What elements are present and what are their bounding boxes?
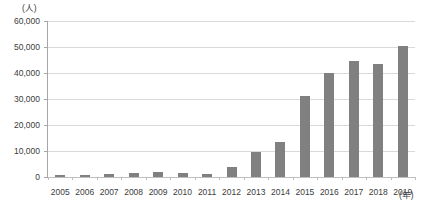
x-axis-tick-label: 2017 <box>342 188 366 197</box>
y-axis-tick-label: 60,000 <box>14 17 40 26</box>
x-axis-tick-label: 2005 <box>48 188 72 197</box>
x-axis-tick-label: 2015 <box>293 188 317 197</box>
x-axis-unit-label: (年) <box>399 188 414 200</box>
x-axis-tick-label: 2011 <box>195 188 219 197</box>
x-axis-tick-label: 2016 <box>317 188 341 197</box>
x-axis-tick <box>415 177 416 180</box>
bar <box>104 174 114 177</box>
x-axis-tick-label: 2014 <box>268 188 292 197</box>
x-axis-tick-label: 2008 <box>121 188 145 197</box>
x-axis-tick <box>195 177 196 180</box>
gridline-baseline <box>48 177 415 178</box>
bar-series <box>48 21 415 177</box>
x-axis-tick <box>268 177 269 180</box>
x-axis-tick <box>97 177 98 180</box>
x-axis-tick <box>170 177 171 180</box>
x-axis-tick <box>317 177 318 180</box>
y-axis-tick-label: 30,000 <box>14 95 40 104</box>
x-axis-tick <box>219 177 220 180</box>
bar <box>80 175 90 177</box>
bar <box>373 64 383 177</box>
x-axis-tick-label: 2007 <box>97 188 121 197</box>
bar <box>324 73 334 177</box>
bar <box>129 173 139 177</box>
x-axis-tick <box>342 177 343 180</box>
x-axis-tick-label: 2009 <box>146 188 170 197</box>
bar <box>178 173 188 177</box>
x-axis-tick <box>391 177 392 180</box>
x-axis-tick <box>244 177 245 180</box>
x-axis-tick-label: 2013 <box>244 188 268 197</box>
y-axis-tick-label: 40,000 <box>14 69 40 78</box>
x-axis-tick-label: 2018 <box>366 188 390 197</box>
x-axis-tick <box>146 177 147 180</box>
bar <box>275 142 285 177</box>
bar <box>153 172 163 177</box>
y-axis-tick-label: 50,000 <box>14 43 40 52</box>
bar <box>300 96 310 177</box>
bar <box>202 174 212 177</box>
bar <box>398 46 408 177</box>
y-axis-tick-label: 10,000 <box>14 147 40 156</box>
bar <box>349 61 359 177</box>
x-axis-tick <box>48 177 49 180</box>
bar <box>227 167 237 177</box>
y-axis-tick-label: 0 <box>35 173 40 182</box>
bar-chart: (人) 60,000 50,000 40,000 30,000 20,000 1… <box>0 0 427 204</box>
x-axis-tick-label: 2012 <box>219 188 243 197</box>
bar <box>251 152 261 177</box>
x-axis-tick-label: 2010 <box>170 188 194 197</box>
x-axis-tick <box>72 177 73 180</box>
bar <box>55 175 65 177</box>
x-axis-tick-label: 2006 <box>72 188 96 197</box>
x-axis-tick <box>121 177 122 180</box>
y-axis-tick-label: 20,000 <box>14 121 40 130</box>
y-axis-unit-label: (人) <box>22 1 37 13</box>
x-axis-tick <box>366 177 367 180</box>
x-axis-tick <box>293 177 294 180</box>
